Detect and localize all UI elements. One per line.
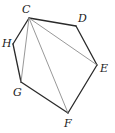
vertex-label-g: G: [13, 86, 22, 99]
diagram-canvas: C D E F G H: [0, 0, 115, 133]
hexagon-diagram: C D E F G H: [0, 0, 115, 133]
diagonal-c-f: [29, 18, 68, 113]
edge-f-g: [21, 82, 68, 113]
vertex-label-d: D: [77, 12, 87, 25]
edge-g-h: [13, 44, 21, 82]
diagonal-c-e: [29, 18, 97, 65]
polygon-edges: [13, 18, 97, 113]
vertex-label-f: F: [63, 117, 72, 130]
edge-d-e: [76, 26, 97, 65]
vertex-label-e: E: [99, 62, 108, 75]
vertex-label-h: H: [1, 37, 12, 50]
edge-c-d: [29, 18, 76, 26]
diagonal-c-g: [21, 18, 29, 82]
diagonals: [21, 18, 97, 113]
edge-e-f: [68, 65, 97, 113]
vertex-label-c: C: [22, 3, 31, 16]
